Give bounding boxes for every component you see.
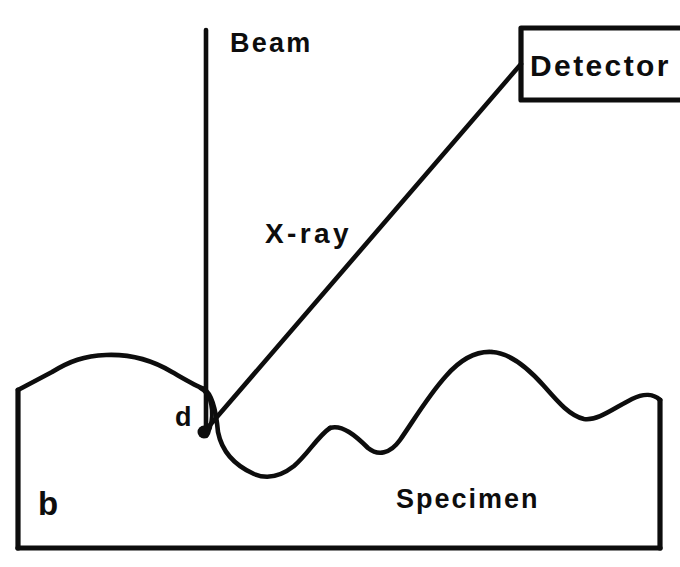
panel-label: b xyxy=(38,485,58,522)
beam-label: Beam xyxy=(230,28,312,58)
specimen-surface-secondary-bump xyxy=(330,352,492,453)
detector-label: Detector xyxy=(530,49,671,82)
diagram-canvas: Beam Detector X-ray Specimen d b xyxy=(0,0,680,567)
xray-path-line xyxy=(204,64,521,432)
scientific-figure: Beam Detector X-ray Specimen d b xyxy=(0,0,680,567)
specimen-surface-main-peak xyxy=(492,352,660,419)
xray-label: X-ray xyxy=(265,218,352,249)
interaction-point-dot xyxy=(198,426,211,439)
specimen-surface-left-hill xyxy=(18,355,204,390)
depth-label: d xyxy=(175,402,192,432)
specimen-label: Specimen xyxy=(396,484,540,514)
specimen-surface-central-valley xyxy=(204,389,330,477)
